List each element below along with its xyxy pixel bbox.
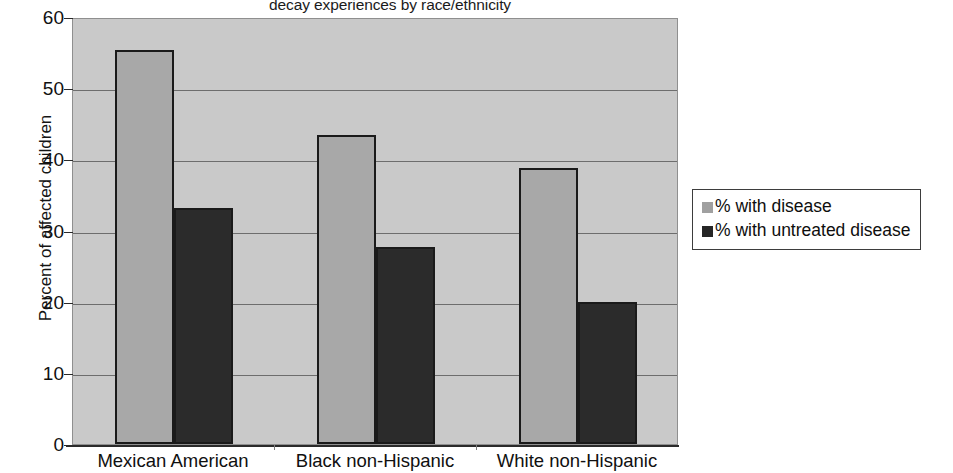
y-axis-tick-label: 0 xyxy=(4,435,64,454)
legend-item: % with disease xyxy=(702,195,911,219)
x-axis-line xyxy=(66,445,679,447)
legend-item-label: % with untreated disease xyxy=(715,222,911,240)
y-axis-tick-label: 20 xyxy=(4,293,64,312)
chart-legend: % with disease % with untreated disease xyxy=(692,189,921,250)
bar-chart-figure: decay experiences by race/ethnicity Perc… xyxy=(0,0,953,473)
legend-swatch-icon xyxy=(702,226,713,237)
chart-title: decay experiences by race/ethnicity xyxy=(175,0,605,14)
legend-item-label: % with disease xyxy=(715,198,832,216)
y-axis-tick xyxy=(64,374,73,375)
y-axis-tick xyxy=(64,18,73,19)
y-axis-tick xyxy=(64,445,73,446)
bar-untreated-disease xyxy=(174,208,233,444)
y-axis-tick xyxy=(64,89,73,90)
bar-with-disease xyxy=(115,50,174,444)
x-axis-category-label: Black non-Hispanic xyxy=(274,450,476,472)
y-axis-tick-label: 60 xyxy=(4,8,64,27)
y-axis-tick xyxy=(64,160,73,161)
bar-with-disease xyxy=(519,168,578,444)
x-axis-category-label: Mexican American xyxy=(72,450,274,472)
y-axis-tick-label: 30 xyxy=(4,222,64,241)
y-axis-tick xyxy=(64,303,73,304)
y-axis-tick xyxy=(64,232,73,233)
bar-untreated-disease xyxy=(376,247,435,444)
legend-item: % with untreated disease xyxy=(702,219,911,243)
bar-untreated-disease xyxy=(578,302,637,444)
legend-swatch-icon xyxy=(702,202,713,213)
y-axis-tick-label: 10 xyxy=(4,364,64,383)
y-axis-tick-label: 40 xyxy=(4,150,64,169)
y-axis-tick-label: 50 xyxy=(4,79,64,98)
x-axis-category-label: White non-Hispanic xyxy=(476,450,678,472)
bar-with-disease xyxy=(317,135,376,444)
plot-area xyxy=(72,18,678,445)
